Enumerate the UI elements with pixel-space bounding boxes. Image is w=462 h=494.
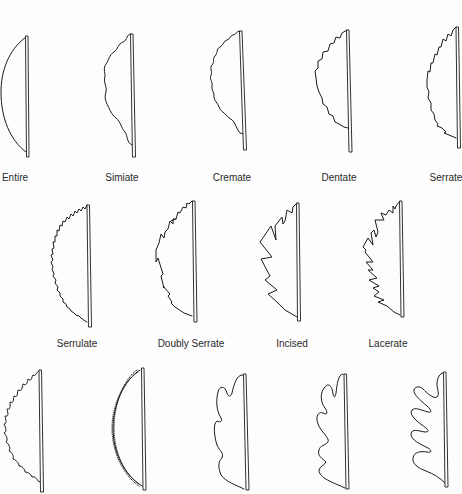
label-serrulate: Serrulate xyxy=(57,338,98,350)
label-serrate: Serrate xyxy=(430,172,462,184)
label-dentate: Dentate xyxy=(321,172,356,184)
leaf-cleft xyxy=(317,374,349,489)
leaf-ciliate xyxy=(112,368,146,490)
label-cremate: Cremate xyxy=(213,172,251,184)
leaf-lobed xyxy=(214,374,249,490)
leaf-simiate xyxy=(104,34,135,157)
leaf-spiny xyxy=(4,370,44,492)
leaf-serrulate xyxy=(51,205,92,327)
label-entire: Entire xyxy=(2,172,28,184)
leaf-serrate xyxy=(427,27,461,148)
leaf-entire xyxy=(1,36,29,157)
leaf-cremate xyxy=(210,31,246,150)
label-doubly-serrate: Doubly Serrate xyxy=(158,338,225,350)
leaf-lacerate xyxy=(363,201,404,317)
leaf-doubly-serrate xyxy=(156,201,197,322)
label-simiate: Simiate xyxy=(105,172,138,184)
leaf-incised xyxy=(260,203,301,321)
label-lacerate: Lacerate xyxy=(369,338,408,350)
label-incised: Incised xyxy=(276,338,308,350)
leaf-dentate xyxy=(315,30,352,152)
leaf-parted xyxy=(411,372,448,487)
